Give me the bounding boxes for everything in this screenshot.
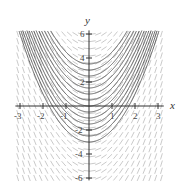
slope-segment — [17, 146, 19, 152]
slope-segment — [34, 110, 36, 116]
slope-segment — [17, 168, 19, 174]
slope-segment — [155, 45, 157, 51]
slope-segment — [28, 125, 30, 131]
slope-segment — [62, 168, 66, 173]
slope-segment — [89, 170, 95, 171]
slope-segment — [17, 81, 19, 87]
slope-segment — [17, 161, 19, 167]
slope-segment — [107, 140, 112, 144]
slope-segment — [143, 125, 145, 131]
slope-segment — [161, 89, 163, 95]
slope-segment — [72, 54, 77, 57]
slope-segment — [67, 39, 72, 43]
slope-segment — [155, 81, 157, 87]
slope-segment — [149, 132, 151, 138]
slope-segment — [161, 38, 163, 44]
slope-segment — [28, 161, 30, 167]
slope-segment — [143, 161, 145, 167]
slope-segment — [125, 146, 128, 152]
slope-segment — [89, 113, 95, 114]
slope-segment — [149, 96, 151, 102]
slope-segment — [28, 117, 30, 123]
slope-segment — [89, 156, 95, 157]
slope-segment — [149, 67, 151, 73]
slope-segment — [125, 161, 128, 167]
slope-segment — [51, 168, 54, 173]
slope-segment — [143, 132, 145, 138]
slope-segment — [72, 162, 77, 165]
slope-segment — [45, 139, 48, 145]
slope-segment — [119, 139, 123, 144]
slope-segment — [22, 53, 24, 59]
slope-segment — [95, 33, 101, 35]
slope-segment — [67, 169, 72, 173]
slope-segment — [56, 75, 60, 80]
slope-segment — [89, 84, 95, 85]
slope-segment — [28, 110, 30, 116]
slope-segment — [22, 89, 24, 95]
slope-segment — [95, 76, 101, 78]
slope-segment — [107, 46, 112, 50]
slope-segment — [149, 81, 151, 87]
slope-segment — [17, 45, 19, 51]
slope-segment — [51, 161, 54, 166]
slope-segment — [125, 175, 128, 181]
slope-segment — [22, 175, 24, 181]
slope-segment — [56, 31, 60, 36]
slope-segment — [45, 161, 48, 167]
slope-segment — [89, 48, 95, 49]
slope-segment — [22, 60, 24, 66]
slope-segment — [89, 120, 95, 121]
slope-segment — [155, 96, 157, 102]
slope-segment — [143, 153, 145, 159]
slope-segment — [34, 125, 36, 131]
slope-segment — [161, 96, 163, 102]
slope-segment — [143, 175, 145, 181]
slope-segment — [101, 32, 106, 36]
slope-segment — [149, 74, 151, 80]
slope-segment — [137, 125, 140, 131]
slope-segment — [51, 125, 54, 130]
x-tick-label: -3 — [14, 111, 22, 121]
slope-segment — [95, 148, 101, 150]
slope-segment — [22, 168, 24, 174]
slope-segment — [51, 132, 54, 137]
slope-segment — [101, 147, 106, 151]
slope-segment — [51, 175, 54, 180]
slope-segment — [119, 161, 123, 166]
slope-segment — [17, 139, 19, 145]
slope-segment — [149, 139, 151, 145]
slope-segment — [113, 147, 117, 152]
slope-segment — [28, 81, 30, 87]
slope-segment — [56, 168, 60, 173]
slope-segment — [95, 155, 101, 157]
slope-segment — [149, 146, 151, 152]
slope-segment — [28, 168, 30, 174]
slope-segment — [28, 89, 30, 95]
slope-field-chart: -3-2-1123-6-4-2246 x y — [0, 0, 182, 192]
slope-segment — [161, 161, 163, 167]
slope-segment — [101, 47, 106, 51]
slope-segment — [22, 161, 24, 167]
slope-segment — [67, 46, 72, 50]
slope-segment — [155, 161, 157, 167]
slope-segment — [155, 153, 157, 159]
slope-segment — [131, 161, 134, 167]
slope-segment — [39, 153, 42, 159]
slope-segment — [113, 39, 117, 44]
slope-segment — [34, 146, 36, 152]
slope-segment — [72, 32, 77, 35]
slope-segment — [161, 168, 163, 174]
slope-segment — [34, 168, 36, 174]
slope-segment — [45, 175, 48, 181]
x-tick-label: 3 — [156, 111, 161, 121]
slope-segment — [155, 125, 157, 131]
slope-segment — [17, 96, 19, 102]
slope-segment — [17, 53, 19, 59]
slope-segment — [149, 110, 151, 116]
slope-segment — [113, 32, 117, 37]
slope-segment — [78, 47, 84, 49]
y-tick-label: 6 — [80, 29, 85, 39]
slope-segment — [149, 168, 151, 174]
y-tick-label: -6 — [75, 173, 83, 183]
